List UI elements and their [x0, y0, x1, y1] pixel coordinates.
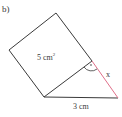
hypotenuse-label: x: [106, 71, 110, 79]
right-angle-dot: [90, 64, 92, 66]
base-length-label: 3 cm: [73, 103, 89, 111]
right-angle-arc: [84, 67, 97, 71]
geometry-diagram: [0, 0, 122, 117]
hypotenuse-segment-x: [92, 61, 118, 98]
part-label: b): [2, 5, 10, 14]
base-segment: [44, 97, 118, 98]
square-area-exponent: 2: [53, 52, 56, 57]
square-area-value: 5 cm: [37, 53, 53, 62]
square-area-label: 5 cm2: [37, 52, 55, 62]
